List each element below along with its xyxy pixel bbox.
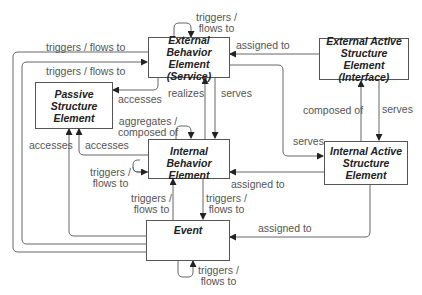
- edge-label: assigned to: [258, 223, 312, 234]
- node-label: Internal Behavior Element: [149, 145, 229, 181]
- archimate-metamodel-diagram: External Behavior Element (Service) Exte…: [0, 0, 422, 295]
- node-internal-behavior-element: Internal Behavior Element: [148, 139, 230, 179]
- edge-label: assigned to: [236, 40, 290, 51]
- node-label: External Behavior Element (Service): [149, 34, 229, 82]
- edge-label: triggers / flows to: [206, 193, 247, 215]
- node-event: Event: [146, 220, 230, 261]
- node-label: Passive Structure Element: [51, 88, 98, 124]
- edge-label: triggers / flows to: [131, 193, 172, 215]
- edge-label: assigned to: [231, 179, 285, 190]
- node-label: Event: [174, 224, 203, 236]
- node-external-active-structure-element: External Active Structure Element (Inter…: [319, 38, 409, 80]
- edge-label: triggers / flows to: [90, 167, 131, 189]
- edge-label: serves: [221, 88, 252, 99]
- edge-label: aggregates / composed of: [118, 116, 178, 138]
- edge-label: realizes: [168, 88, 204, 99]
- node-internal-active-structure-element: Internal Active Structure Element: [324, 141, 408, 185]
- edge-label: triggers / flows to: [46, 42, 125, 53]
- edge-label: accesses: [85, 140, 129, 151]
- edge-label: triggers / flows to: [46, 66, 125, 77]
- node-label: External Active Structure Element (Inter…: [320, 35, 408, 83]
- node-label: Internal Active Structure Element: [330, 145, 402, 181]
- edge-label: accesses: [118, 94, 162, 105]
- node-passive-structure-element: Passive Structure Element: [35, 82, 113, 129]
- edge-label: accesses: [29, 140, 73, 151]
- edge-label: triggers / flows to: [198, 265, 239, 287]
- edge-label: triggers / flows to: [196, 12, 237, 34]
- edge-label: serves: [293, 136, 324, 147]
- node-external-behavior-element: External Behavior Element (Service): [148, 37, 230, 78]
- edge-label: serves: [382, 104, 413, 115]
- edge-label: composed of: [303, 105, 363, 116]
